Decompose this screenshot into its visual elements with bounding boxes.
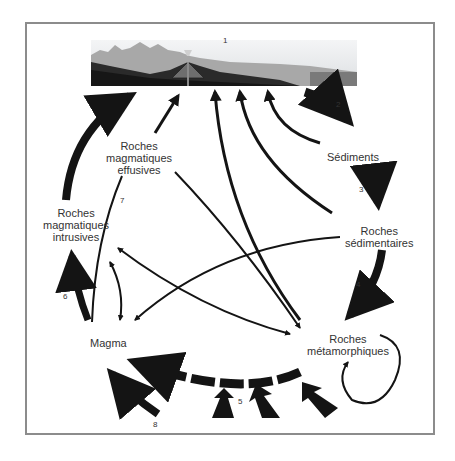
process-number-7: 7	[120, 196, 124, 205]
label-roches-sedimentaires: Roches sédimentaires	[345, 225, 413, 249]
heat-arrow-3	[302, 382, 338, 418]
arrow-4	[350, 250, 382, 315]
label-line: effusives	[106, 164, 172, 176]
arrow-3	[368, 168, 378, 203]
arrow-effusives-meta	[175, 172, 300, 328]
arrow-sed-surface	[240, 92, 332, 213]
process-number-8: 8	[153, 420, 157, 429]
arrow-6	[72, 256, 88, 320]
label-line: Roches	[106, 140, 172, 152]
process-number-3: 3	[359, 185, 363, 194]
arrow-5	[135, 362, 300, 384]
label-roches-metamorphiques: Roches métamorphiques	[307, 333, 389, 357]
arrow-magma-intrusives	[110, 262, 121, 320]
heat-arrow-1	[212, 388, 234, 418]
process-number-6: 6	[63, 292, 67, 301]
surface-block-diagram	[91, 40, 357, 86]
label-line: sédimentaires	[345, 237, 413, 249]
arrow-sed-magma	[135, 237, 340, 320]
heat-arrow-2	[249, 384, 280, 418]
process-number-1: 1	[223, 36, 227, 45]
arrow-8	[112, 374, 158, 414]
arrow-7	[92, 176, 122, 322]
label-line: magmatiques	[106, 152, 172, 164]
label-line: Roches	[307, 333, 389, 345]
label-line: métamorphiques	[307, 345, 389, 357]
arrow-2	[305, 92, 348, 120]
process-number-4: 4	[356, 280, 360, 289]
arrow-sediments-surface	[268, 92, 320, 143]
arrow-effusives-surface	[155, 96, 178, 133]
label-line: intrusives	[43, 231, 109, 243]
label-line: Roches	[345, 225, 413, 237]
label-roches-magmatiques-effusives: Roches magmatiques effusives	[106, 140, 172, 176]
label-magma: Magma	[90, 337, 127, 349]
label-roches-magmatiques-intrusives: Roches magmatiques intrusives	[43, 207, 109, 243]
label-line: magmatiques	[43, 219, 109, 231]
process-number-5: 5	[238, 397, 242, 406]
label-sediments: Sédiments	[327, 151, 379, 163]
process-number-2: 2	[336, 100, 340, 109]
label-line: Roches	[43, 207, 109, 219]
